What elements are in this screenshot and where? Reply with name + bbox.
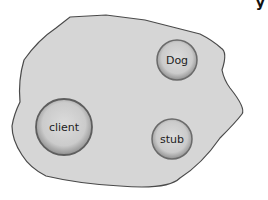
object-space-region <box>12 15 243 187</box>
node-stub[interactable]: stub <box>152 119 192 159</box>
node-client[interactable]: client <box>36 99 92 155</box>
node-stub-label: stub <box>160 133 184 146</box>
diagram-canvas: Dog client stub <box>0 0 268 200</box>
node-dog-label: Dog <box>166 54 188 67</box>
node-dog[interactable]: Dog <box>157 40 197 80</box>
node-client-label: client <box>49 121 80 134</box>
